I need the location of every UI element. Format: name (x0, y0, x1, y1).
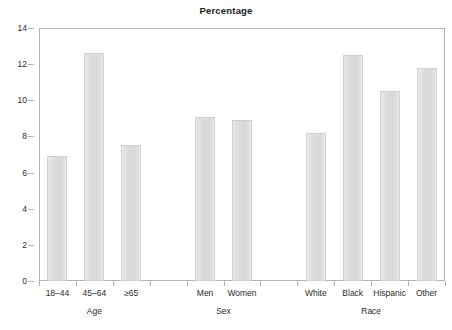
y-tick-label: 8 (22, 131, 27, 141)
x-tick-label: Hispanic (373, 288, 406, 298)
y-tick-mark (28, 281, 34, 282)
y-tick-mark (28, 245, 34, 246)
bar (84, 53, 104, 281)
x-tick-mark (39, 281, 40, 286)
x-tick-mark (150, 281, 151, 286)
y-tick-mark (28, 28, 34, 29)
x-tick-mark (260, 281, 261, 286)
y-tick-label: 14 (18, 23, 27, 33)
x-tick-mark (224, 281, 225, 286)
y-tick-label: 2 (22, 240, 27, 250)
x-tick-mark (371, 281, 372, 286)
x-tick-label: Other (416, 288, 437, 298)
x-tick-mark (334, 281, 335, 286)
x-tick-label: ≥65 (124, 288, 138, 298)
x-tick-label: Black (342, 288, 363, 298)
x-tick-label: 45–64 (83, 288, 107, 298)
y-tick-mark (28, 209, 34, 210)
y-tick-mark (28, 173, 34, 174)
bar (343, 55, 363, 281)
bar (195, 117, 215, 281)
y-tick-mark (28, 100, 34, 101)
y-tick-mark (28, 136, 34, 137)
y-tick-label: 4 (22, 204, 27, 214)
x-tick-label: Women (227, 288, 256, 298)
bar (380, 91, 400, 281)
group-label: Age (87, 306, 102, 316)
bar (417, 68, 437, 281)
bar (306, 133, 326, 281)
x-tick-mark (297, 281, 298, 286)
y-tick-label: 10 (18, 95, 27, 105)
y-tick-label: 12 (18, 59, 27, 69)
y-tick-mark (28, 64, 34, 65)
x-tick-label: 18–44 (46, 288, 70, 298)
x-tick-mark (187, 281, 188, 286)
x-tick-mark (445, 281, 446, 286)
bar (121, 145, 141, 281)
group-label: Race (361, 306, 381, 316)
x-tick-label: White (305, 288, 327, 298)
x-tick-mark (408, 281, 409, 286)
x-tick-mark (113, 281, 114, 286)
y-axis: 02468101214 (0, 0, 39, 330)
y-tick-label: 6 (22, 168, 27, 178)
chart-title: Percentage (0, 5, 452, 16)
x-tick-mark (76, 281, 77, 286)
x-tick-label: Men (197, 288, 214, 298)
y-tick-label: 0 (22, 276, 27, 286)
bar (232, 120, 252, 281)
bar (47, 156, 67, 281)
chart-screenshot: Percentage 02468101214 18–4445–64≥65MenW… (0, 0, 452, 330)
group-label: Sex (216, 306, 231, 316)
